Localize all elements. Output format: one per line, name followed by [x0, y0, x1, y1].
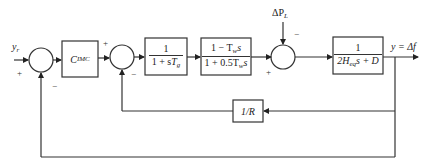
sum3-plus-sign: +	[266, 68, 271, 77]
sum2-plus-sign: +	[103, 39, 108, 48]
governor-transfer-function: 1 1 + sTg	[145, 38, 187, 75]
summing-junction-1	[29, 48, 53, 72]
sum1-minus-sign: −	[52, 82, 57, 91]
input-label: yr	[12, 42, 19, 54]
disturbance-label: ΔPL	[272, 8, 288, 20]
sum2-minus-sign: −	[131, 70, 136, 79]
sum1-plus-sign: +	[17, 69, 22, 78]
diagram-canvas	[0, 0, 432, 165]
power-system-transfer-function: 1 2Heqs + D	[333, 37, 383, 74]
summing-junction-3	[271, 45, 295, 69]
summing-junction-2	[110, 45, 134, 69]
sum3-minus-sign: −	[294, 30, 299, 39]
output-label: y = Δf	[391, 42, 416, 52]
controller-label: CIMC	[62, 41, 98, 77]
turbine-transfer-function: 1 − Tws 1 + 0.5Tws	[201, 38, 251, 75]
droop-label: 1/R	[233, 100, 263, 122]
